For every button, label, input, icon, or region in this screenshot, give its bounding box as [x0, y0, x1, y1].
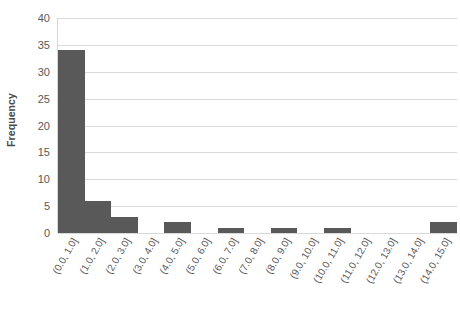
y-axis-tick-labels: 0510152025303540 — [22, 0, 54, 240]
y-axis-tick-label: 5 — [44, 200, 50, 212]
bar-slot — [164, 18, 191, 233]
bar-slot — [297, 18, 324, 233]
bar[interactable] — [324, 228, 351, 233]
y-axis-tick-label: 25 — [38, 93, 50, 105]
x-axis-tick-label: (0.0, 1.0] — [51, 236, 80, 276]
x-axis-tick-label-slot: (1.0, 2.0] — [84, 234, 111, 312]
bars-layer — [58, 18, 457, 233]
x-axis-tick-label-slot: (4.0, 5.0] — [163, 234, 190, 312]
y-axis-tick-label: 20 — [38, 120, 50, 132]
y-axis-tick-label: 40 — [38, 12, 50, 24]
bar[interactable] — [85, 201, 112, 233]
bar-slot — [351, 18, 378, 233]
y-axis-tick-label: 15 — [38, 146, 50, 158]
bar-slot — [58, 18, 85, 233]
bar[interactable] — [271, 228, 298, 233]
bar[interactable] — [430, 222, 457, 233]
y-axis-tick-label: 30 — [38, 66, 50, 78]
x-axis-tick-label-slot: (14.0, 15.0] — [429, 234, 456, 312]
x-axis-tick-label-slot: (7.0, 8.0] — [243, 234, 270, 312]
x-axis-tick-label-slot: (5.0, 6.0] — [190, 234, 217, 312]
bar[interactable] — [58, 50, 85, 233]
bar-slot — [138, 18, 165, 233]
bar[interactable] — [218, 228, 245, 233]
x-axis-tick-label-slot: (6.0, 7.0] — [217, 234, 244, 312]
x-axis-tick-label-slot: (0.0, 1.0] — [57, 234, 84, 312]
bar-slot — [324, 18, 351, 233]
y-axis-tick-label: 35 — [38, 39, 50, 51]
bar[interactable] — [164, 222, 191, 233]
bar-slot — [271, 18, 298, 233]
y-axis-tick-label: 0 — [44, 227, 50, 239]
x-axis-tick-label-slot: (2.0, 3.0] — [110, 234, 137, 312]
bar-slot — [244, 18, 271, 233]
histogram-chart: Frequency 0510152025303540 (0.0, 1.0](1.… — [0, 0, 460, 312]
y-axis-title: Frequency — [0, 0, 22, 240]
x-axis-tick-label-slot: (3.0, 4.0] — [137, 234, 164, 312]
bar-slot — [85, 18, 112, 233]
bar-slot — [404, 18, 431, 233]
bar-slot — [430, 18, 457, 233]
bar-slot — [218, 18, 245, 233]
bar-slot — [377, 18, 404, 233]
y-axis-tick-label: 10 — [38, 173, 50, 185]
plot-area — [57, 18, 457, 233]
bar-slot — [111, 18, 138, 233]
bar[interactable] — [111, 217, 138, 233]
bar-slot — [191, 18, 218, 233]
y-axis-title-label: Frequency — [5, 93, 17, 147]
x-axis-tick-labels: (0.0, 1.0](1.0, 2.0](2.0, 3.0](3.0, 4.0]… — [57, 234, 456, 312]
